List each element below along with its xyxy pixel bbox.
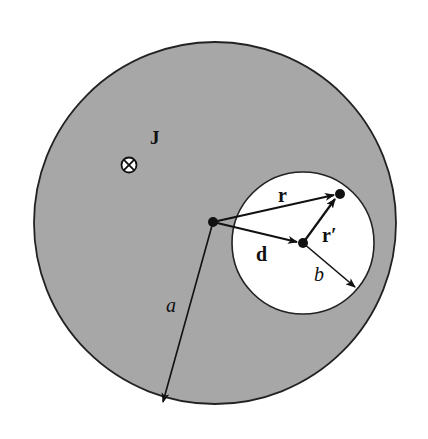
origin-point <box>208 217 218 227</box>
outer-radius-label: a <box>166 294 176 316</box>
hole-radius-label: b <box>314 263 324 285</box>
conductor-diagram: J a r d r′ b <box>0 0 428 439</box>
current-density-label: J <box>150 127 160 148</box>
relative-vector-label: r′ <box>322 224 337 246</box>
offset-vector-label: d <box>256 243 267 265</box>
position-vector-label: r <box>278 184 287 206</box>
diagram-canvas: J a r d r′ b <box>0 0 428 439</box>
current-into-page-icon <box>122 158 137 173</box>
hole-center-point <box>298 238 308 248</box>
field-point <box>335 189 345 199</box>
